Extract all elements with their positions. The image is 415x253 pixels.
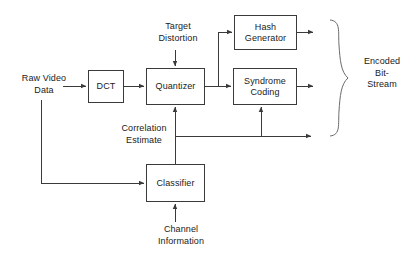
diagram-canvas: DCT Quantizer Hash Generator Syndrome Co…: [0, 0, 415, 253]
block-classifier[interactable]: Classifier: [146, 164, 205, 202]
block-hash-generator[interactable]: Hash Generator: [234, 15, 297, 50]
label-correlation-estimate: Correlation Estimate: [110, 123, 178, 146]
block-syndrome-coding[interactable]: Syndrome Coding: [233, 68, 297, 105]
label-channel-information: Channel Information: [150, 224, 212, 247]
label-target-distortion: Target Distortion: [148, 21, 208, 44]
block-quantizer[interactable]: Quantizer: [146, 68, 205, 105]
block-dct[interactable]: DCT: [88, 70, 124, 103]
encoded-bitstream-brace: [330, 20, 348, 136]
label-encoded-bit-stream: Encoded Bit- Stream: [356, 56, 408, 91]
wire-quantizer-to-hash: [218, 32, 232, 86]
label-raw-video-data: Raw Video Data: [6, 73, 82, 96]
